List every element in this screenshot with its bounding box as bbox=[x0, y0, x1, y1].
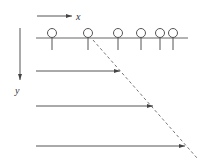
dashed-wavefront-line bbox=[93, 40, 197, 158]
receiver-array bbox=[48, 29, 178, 51]
receiver-icon bbox=[48, 29, 57, 51]
receiver-icon bbox=[84, 29, 93, 51]
ray-arrows bbox=[36, 71, 185, 146]
receiver-icon bbox=[169, 29, 178, 51]
receiver-icon bbox=[137, 29, 146, 51]
receiver-icon bbox=[156, 29, 165, 51]
x-axis-label: x bbox=[75, 11, 81, 22]
y-axis-label: y bbox=[14, 85, 20, 96]
receiver-icon bbox=[114, 29, 123, 51]
diagram-canvas: x y bbox=[0, 0, 206, 162]
